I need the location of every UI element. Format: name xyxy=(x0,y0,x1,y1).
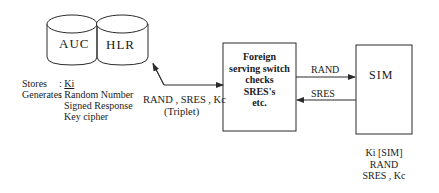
sim-content-line: RAND xyxy=(354,159,414,171)
stores-colon: : Ki xyxy=(59,78,74,89)
rand-label: RAND xyxy=(311,64,339,75)
triplet-arrow xyxy=(153,63,223,85)
foreign-switch-line: SRES's xyxy=(223,86,296,98)
hlr-label: HLR xyxy=(106,37,135,53)
foreign-switch-text: Foreign serving switch checks SRES's etc… xyxy=(223,51,296,109)
stores-label: Stores xyxy=(22,78,47,89)
generates-label: Generates xyxy=(22,89,62,100)
foreign-switch-line: Foreign xyxy=(223,51,296,63)
sim-label: SIM xyxy=(369,70,393,81)
sres-label: SRES xyxy=(311,88,335,99)
foreign-switch-line: serving switch xyxy=(223,63,296,75)
generates-item: Signed Response xyxy=(64,100,133,111)
stores-value: Ki xyxy=(64,78,74,89)
triplet-sublabel: (Triplet) xyxy=(164,106,199,117)
sim-content-line: Ki [SIM] xyxy=(354,147,414,159)
auc-label: AUC xyxy=(59,36,89,52)
foreign-switch-line: checks xyxy=(223,74,296,86)
generates-item: Key cipher xyxy=(64,111,108,122)
generates-colon: : Random Number xyxy=(59,89,133,100)
sim-content-line: SRES , Kc xyxy=(354,170,414,182)
sim-box xyxy=(356,45,412,134)
triplet-label: RAND , SRES , Kc xyxy=(143,94,226,105)
foreign-switch-line: etc. xyxy=(223,97,296,109)
sim-contents: Ki [SIM] RAND SRES , Kc xyxy=(354,147,414,182)
generates-item: Random Number xyxy=(64,89,133,100)
